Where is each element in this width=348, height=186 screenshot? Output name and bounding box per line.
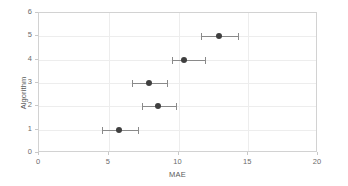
errorbar-cap-high <box>238 33 239 40</box>
errorbar-cap-high <box>176 103 177 110</box>
gridline-vertical <box>179 13 180 151</box>
x-axis-tick-label: 10 <box>163 158 193 166</box>
x-axis-tick-label: 15 <box>232 158 262 166</box>
data-point-marker[interactable] <box>116 127 122 133</box>
y-axis-tick-label: 2 <box>10 101 32 109</box>
x-axis-tick-label: 20 <box>302 158 332 166</box>
data-point-marker[interactable] <box>216 33 222 39</box>
errorbar-cap-low <box>142 103 143 110</box>
x-axis-tick-mark <box>108 152 109 155</box>
gridline-vertical <box>248 13 249 151</box>
errorbar-cap-low <box>102 127 103 134</box>
x-axis-tick-label: 0 <box>23 158 53 166</box>
data-point-marker[interactable] <box>146 80 152 86</box>
x-axis-tick-mark <box>317 152 318 155</box>
data-point-marker[interactable] <box>181 57 187 63</box>
y-axis-tick-label: 4 <box>10 55 32 63</box>
gridline-horizontal <box>39 36 316 37</box>
gridline-horizontal <box>39 130 316 131</box>
x-axis-title: MAE <box>38 170 317 179</box>
errorbar-cap-high <box>167 80 168 87</box>
gridline-horizontal <box>39 106 316 107</box>
errorbar-line <box>172 60 205 61</box>
errorbar-cap-high <box>205 57 206 64</box>
x-axis-tick-mark <box>38 152 39 155</box>
errorbar-cap-high <box>138 127 139 134</box>
y-axis-tick-label: 5 <box>10 31 32 39</box>
x-axis-tick-mark <box>178 152 179 155</box>
chart-container: Algorithm 0123456 05101520 MAE <box>0 0 348 186</box>
errorbar-cap-low <box>132 80 133 87</box>
plot-area <box>38 12 317 152</box>
y-axis-tick-label: 3 <box>10 78 32 86</box>
data-point-marker[interactable] <box>155 103 161 109</box>
x-axis-tick-label: 5 <box>93 158 123 166</box>
y-axis-tick-label: 0 <box>10 148 32 156</box>
errorbar-cap-low <box>172 57 173 64</box>
gridline-horizontal <box>39 83 316 84</box>
y-axis-tick-label: 1 <box>10 125 32 133</box>
errorbar-cap-low <box>201 33 202 40</box>
x-axis-tick-mark <box>247 152 248 155</box>
y-axis-tick-label: 6 <box>10 8 32 16</box>
